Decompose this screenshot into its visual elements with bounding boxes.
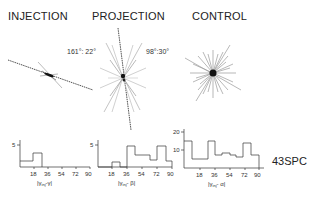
svg-text:36: 36: [211, 172, 218, 178]
projection-rose-diagram: [100, 28, 146, 130]
svg-text:20: 20: [173, 129, 180, 135]
control-histogram-labels: 20 10 18 36 54 72 90 |γinj- α|: [173, 129, 261, 188]
svg-text:18: 18: [196, 172, 203, 178]
injection-histogram-labels: 5 18 36 54 72 90 |γinj-γ|: [12, 142, 92, 187]
svg-text:54: 54: [138, 171, 145, 177]
svg-text:|γinj-γ|: |γinj-γ|: [37, 180, 53, 187]
svg-text:5: 5: [12, 142, 16, 148]
control-rose-diagram: [185, 45, 241, 101]
svg-text:|γinj- α|: |γinj- α|: [208, 181, 226, 188]
injection-histogram: [17, 140, 90, 169]
svg-text:36: 36: [44, 171, 51, 177]
svg-text:36: 36: [123, 171, 130, 177]
svg-text:90: 90: [85, 171, 92, 177]
figure-canvas: 5 18 36 54 72 90 |γinj-γ| 5 18 36 54 72 …: [0, 0, 310, 197]
projection-histogram: [95, 140, 172, 169]
control-histogram: [181, 129, 264, 170]
svg-text:18: 18: [108, 171, 115, 177]
svg-text:|γinj- β|: |γinj- β|: [118, 180, 136, 187]
svg-text:54: 54: [58, 171, 65, 177]
svg-text:90: 90: [167, 171, 174, 177]
svg-text:18: 18: [30, 171, 37, 177]
svg-text:10: 10: [173, 147, 180, 153]
svg-text:72: 72: [153, 171, 160, 177]
projection-histogram-labels: 5 18 36 54 72 90 |γinj- β|: [90, 142, 174, 187]
injection-rose-diagram: [8, 60, 93, 90]
svg-text:54: 54: [226, 172, 233, 178]
svg-text:72: 72: [72, 171, 79, 177]
svg-text:90: 90: [254, 172, 261, 178]
svg-text:5: 5: [90, 142, 94, 148]
svg-text:72: 72: [241, 172, 248, 178]
